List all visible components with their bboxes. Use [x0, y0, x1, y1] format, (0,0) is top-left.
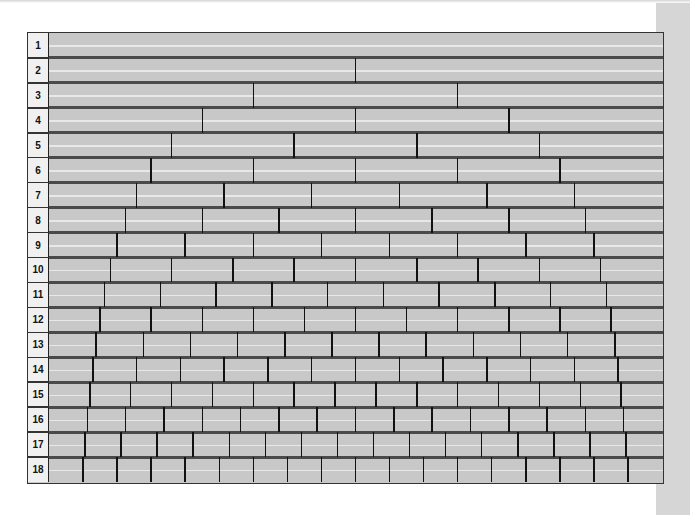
part-divider	[389, 233, 391, 258]
part-divider	[550, 282, 552, 307]
part-divider	[416, 382, 418, 407]
part-divider	[253, 382, 255, 407]
fraction-row-8: 8	[28, 208, 663, 233]
fraction-row-10: 10	[28, 258, 663, 283]
part-divider	[184, 233, 186, 258]
part-divider	[559, 307, 561, 332]
part-divider	[530, 357, 532, 382]
part-divider	[431, 208, 433, 233]
part-divider	[498, 382, 500, 407]
part-divider	[539, 133, 541, 158]
part-divider	[229, 432, 231, 457]
part-divider	[202, 307, 204, 332]
part-divider	[477, 258, 479, 283]
label-separator	[28, 257, 49, 259]
part-divider	[491, 457, 493, 482]
part-divider	[617, 357, 619, 382]
part-divider	[125, 208, 127, 233]
label-separator	[28, 282, 49, 284]
part-divider	[287, 457, 289, 482]
part-divider	[593, 233, 595, 258]
part-divider	[457, 382, 459, 407]
row-label: 2	[28, 58, 49, 83]
fraction-row-4: 4	[28, 108, 663, 133]
part-divider	[202, 208, 204, 233]
fraction-row-3: 3	[28, 83, 663, 108]
part-divider	[253, 83, 255, 108]
part-divider	[574, 183, 576, 208]
part-divider	[223, 357, 225, 382]
part-divider	[130, 382, 132, 407]
fraction-row-9: 9	[28, 233, 663, 258]
part-divider	[84, 432, 86, 457]
part-divider	[423, 457, 425, 482]
part-divider	[393, 407, 395, 432]
part-divider	[156, 432, 158, 457]
part-divider	[494, 282, 496, 307]
fraction-row-17: 17	[28, 432, 663, 457]
label-separator	[28, 431, 49, 433]
part-divider	[610, 307, 612, 332]
part-divider	[416, 133, 418, 158]
label-separator	[28, 157, 49, 159]
part-divider	[82, 457, 84, 482]
part-divider	[125, 407, 127, 432]
part-divider	[614, 332, 616, 357]
part-divider	[92, 357, 94, 382]
fraction-row-16: 16	[28, 407, 663, 432]
part-divider	[470, 407, 472, 432]
part-divider	[184, 457, 186, 482]
part-divider	[190, 332, 192, 357]
part-divider	[559, 158, 561, 183]
part-divider	[253, 233, 255, 258]
part-divider	[559, 457, 561, 482]
part-divider	[355, 258, 357, 283]
part-divider	[355, 108, 357, 133]
part-divider	[409, 432, 411, 457]
part-divider	[442, 357, 444, 382]
row-label: 18	[28, 457, 49, 482]
part-divider	[520, 332, 522, 357]
part-divider	[136, 357, 138, 382]
part-divider	[253, 307, 255, 332]
fraction-bar	[49, 133, 663, 158]
fraction-bar	[49, 258, 663, 283]
part-divider	[355, 407, 357, 432]
part-divider	[271, 282, 273, 307]
top-edge	[0, 0, 690, 3]
part-divider	[525, 233, 527, 258]
part-divider	[355, 58, 357, 83]
fraction-bar	[49, 158, 663, 183]
fraction-bar	[49, 307, 663, 332]
part-divider	[337, 432, 339, 457]
part-divider	[574, 357, 576, 382]
fraction-row-6: 6	[28, 158, 663, 183]
part-divider	[278, 407, 280, 432]
part-divider	[508, 407, 510, 432]
fraction-bar	[49, 282, 663, 307]
part-divider	[293, 382, 295, 407]
part-divider	[202, 108, 204, 133]
part-divider	[284, 332, 286, 357]
part-divider	[486, 183, 488, 208]
part-divider	[508, 307, 510, 332]
label-separator	[28, 207, 49, 209]
fraction-row-5: 5	[28, 133, 663, 158]
label-separator	[28, 381, 49, 383]
part-divider	[508, 108, 510, 133]
part-divider	[304, 307, 306, 332]
fraction-bar	[49, 83, 663, 108]
row-label: 15	[28, 382, 49, 407]
label-separator	[28, 406, 49, 408]
label-separator	[28, 82, 49, 84]
part-divider	[215, 282, 217, 307]
part-divider	[150, 307, 152, 332]
part-divider	[116, 457, 118, 482]
fraction-bar	[49, 457, 663, 482]
part-divider	[457, 233, 459, 258]
fraction-bar	[49, 33, 663, 58]
fraction-row-11: 11	[28, 282, 663, 307]
part-divider	[237, 332, 239, 357]
row-label: 16	[28, 407, 49, 432]
row-label: 1	[28, 33, 49, 58]
